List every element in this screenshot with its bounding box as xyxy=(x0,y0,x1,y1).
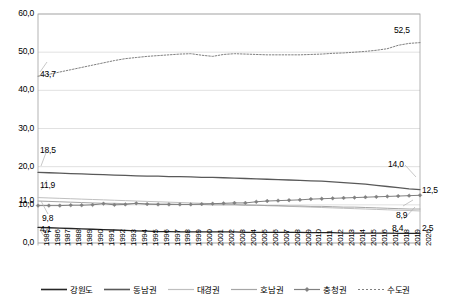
legend-label-수도권: 수도권 xyxy=(387,283,410,295)
data-label-start-강원도: 4,1 xyxy=(40,224,51,234)
data-label-end-호남권: 8,9 xyxy=(396,210,407,220)
x-axis-tick-label: 2012 xyxy=(336,229,345,246)
legend-swatch-동남권 xyxy=(104,285,130,294)
x-axis-tick-label: 1990 xyxy=(96,229,105,246)
y-axis-tick-label: 50,0 xyxy=(0,46,34,56)
x-axis-tick-label: 1995 xyxy=(151,229,160,246)
x-axis-tick-label: 1997 xyxy=(173,229,182,246)
x-axis-tick-label: 2009 xyxy=(304,229,313,246)
x-axis-tick-label: 1988 xyxy=(74,229,83,246)
legend-swatch-충청권 xyxy=(294,285,320,294)
y-axis-tick-label: 20,0 xyxy=(0,161,34,171)
x-axis-tick-label: 2001 xyxy=(216,229,225,246)
data-label-end-대경권: 8,4 xyxy=(392,223,403,233)
x-axis-tick-label: 2010 xyxy=(314,229,323,246)
x-axis-tick-label: 2002 xyxy=(227,229,236,246)
legend-label-대경권: 대경권 xyxy=(197,283,220,295)
y-axis-tick-label: 60,0 xyxy=(0,8,34,18)
legend-label-충청권: 충청권 xyxy=(323,283,346,295)
y-axis-tick-label-extra: 11,0 xyxy=(0,195,34,205)
legend-item-충청권[interactable]: 충청권 xyxy=(294,283,346,295)
x-axis-tick-label: 2000 xyxy=(205,229,214,246)
legend-swatch-수도권 xyxy=(358,285,384,294)
legend-item-수도권[interactable]: 수도권 xyxy=(358,283,410,295)
x-axis-tick-label: 1989 xyxy=(85,229,94,246)
data-label-end-수도권: 52,5 xyxy=(394,25,410,35)
data-label-end-강원도: 2,5 xyxy=(422,223,433,233)
x-axis-tick-label: 1993 xyxy=(129,229,138,246)
y-axis-tick-label: 40,0 xyxy=(0,84,34,94)
data-label-end-동남권: 14,0 xyxy=(388,159,404,169)
legend-label-강원도: 강원도 xyxy=(70,283,93,295)
line-chart: 0,010,020,030,040,050,060,011,0 19851986… xyxy=(0,0,451,305)
x-axis-tick-label: 2013 xyxy=(347,229,356,246)
x-axis-tick-label: 2015 xyxy=(369,229,378,246)
x-axis-tick-label: 2008 xyxy=(293,229,302,246)
y-axis-tick-label: 30,0 xyxy=(0,123,34,133)
chart-canvas xyxy=(0,0,451,305)
legend-item-대경권[interactable]: 대경권 xyxy=(168,283,220,295)
legend-swatch-대경권 xyxy=(168,285,194,294)
x-axis-tick-label: 1999 xyxy=(194,229,203,246)
legend-item-호남권[interactable]: 호남권 xyxy=(231,283,283,295)
x-axis-tick-label: 1991 xyxy=(107,229,116,246)
legend-item-동남권[interactable]: 동남권 xyxy=(104,283,156,295)
x-axis-tick-label: 1998 xyxy=(183,229,192,246)
label-leader-lines xyxy=(40,62,416,236)
data-label-start-수도권: 43,7 xyxy=(40,69,56,79)
data-label-end-충청권: 12,5 xyxy=(422,185,438,195)
x-axis-tick-label: 1992 xyxy=(118,229,127,246)
x-axis-tick-label: 1986 xyxy=(53,229,62,246)
x-axis-tick-label: 2016 xyxy=(380,229,389,246)
x-axis-tick-label: 2019 xyxy=(413,229,422,246)
legend-swatch-강원도 xyxy=(41,285,67,294)
x-axis-tick-label: 1994 xyxy=(140,229,149,246)
data-label-start-충청권: 9,8 xyxy=(42,213,53,223)
x-axis-tick-label: 2004 xyxy=(249,229,258,246)
x-axis-tick-label: 2007 xyxy=(282,229,291,246)
x-axis-tick-label: 2014 xyxy=(358,229,367,246)
x-axis-tick-label: 1996 xyxy=(162,229,171,246)
legend-label-동남권: 동남권 xyxy=(133,283,156,295)
chart-legend: 강원도동남권대경권호남권충청권수도권 xyxy=(0,279,451,299)
legend-label-호남권: 호남권 xyxy=(260,283,283,295)
data-label-start-동남권: 18,5 xyxy=(40,145,56,155)
x-axis-tick-label: 2011 xyxy=(325,230,334,246)
legend-swatch-호남권 xyxy=(231,285,257,294)
x-axis-tick-label: 1987 xyxy=(63,229,72,246)
legend-item-강원도[interactable]: 강원도 xyxy=(41,283,93,295)
x-axis-tick-label: 2006 xyxy=(271,229,280,246)
x-axis-tick-label: 2005 xyxy=(260,229,269,246)
y-axis-tick-label: 0,0 xyxy=(0,237,34,247)
data-label-start-대경권: 11,9 xyxy=(40,180,55,190)
x-axis-tick-label: 2003 xyxy=(238,229,247,246)
